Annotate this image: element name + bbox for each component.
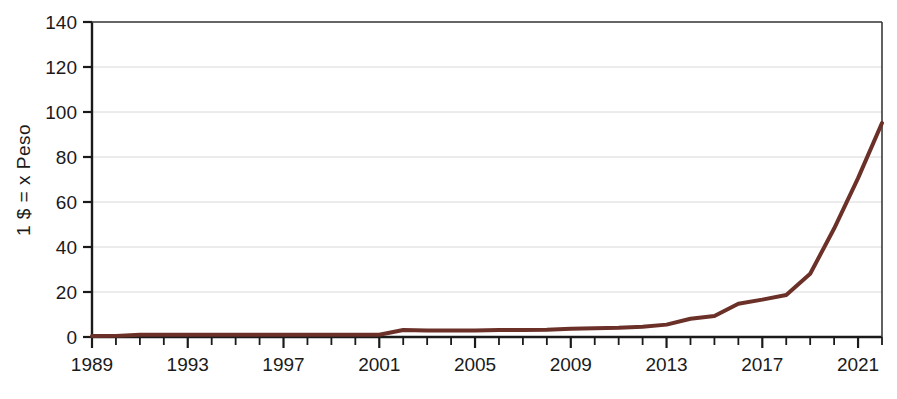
- x-axis-tick-labels: 198919931997200120052009201320172021: [71, 354, 879, 375]
- x-tick-label-1993: 1993: [167, 354, 209, 375]
- y-tick-label-60: 60: [56, 192, 77, 213]
- series-line-0: [92, 123, 882, 336]
- x-axis-minor-ticks: [116, 337, 882, 345]
- y-tick-label-120: 120: [45, 57, 77, 78]
- y-axis-tick-labels: 020406080100120140: [45, 12, 77, 348]
- gridlines: [92, 22, 882, 292]
- y-tick-label-40: 40: [56, 237, 77, 258]
- x-tick-label-1989: 1989: [71, 354, 113, 375]
- axis-frame: [92, 22, 882, 337]
- y-tick-label-0: 0: [66, 327, 77, 348]
- x-tick-label-2001: 2001: [358, 354, 400, 375]
- y-tick-label-100: 100: [45, 102, 77, 123]
- data-series-group: [92, 123, 882, 336]
- x-tick-label-1997: 1997: [262, 354, 304, 375]
- y-tick-label-140: 140: [45, 12, 77, 33]
- y-tick-label-80: 80: [56, 147, 77, 168]
- x-tick-label-2009: 2009: [550, 354, 592, 375]
- exchange-rate-line-chart: 1 $ = x Peso 020406080100120140 19891993…: [0, 0, 897, 399]
- x-tick-label-2005: 2005: [454, 354, 496, 375]
- plot-svg: 020406080100120140 198919931997200120052…: [0, 0, 897, 399]
- x-tick-label-2017: 2017: [741, 354, 783, 375]
- x-tick-label-2013: 2013: [645, 354, 687, 375]
- x-axis-major-ticks: [92, 337, 858, 348]
- y-tick-label-20: 20: [56, 282, 77, 303]
- x-tick-label-2021: 2021: [837, 354, 879, 375]
- y-axis-ticks: [83, 22, 92, 337]
